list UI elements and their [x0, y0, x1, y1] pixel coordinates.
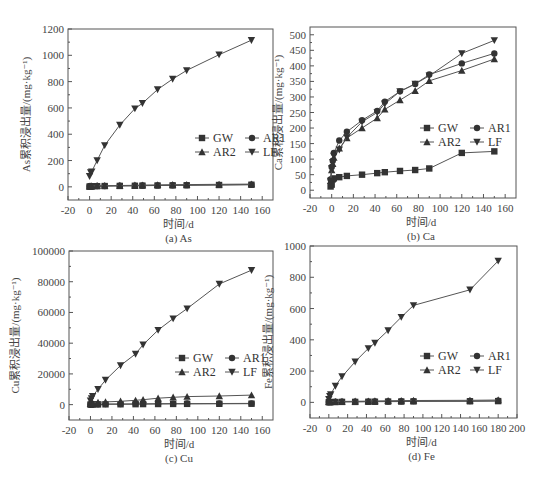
y-tick-label: 100000 [32, 245, 66, 257]
x-tick-label: -20 [61, 204, 76, 216]
x-tick-label: 40 [128, 424, 140, 436]
x-tick-label: 120 [211, 424, 228, 436]
x-axis: -20020406080100120140160 [303, 194, 514, 214]
y-axis-label: Fe累积浸出量/(mg·kg⁻¹) [261, 275, 275, 390]
legend-label: AR2 [438, 363, 461, 377]
x-axis-label: 时间/d [406, 216, 437, 228]
y-tick-label: 60000 [38, 306, 66, 318]
ar1-marker-icon [459, 60, 465, 66]
x-tick-label: 160 [254, 424, 271, 436]
y-tick-label: 400 [290, 60, 307, 72]
chart-caption: (b) Ca [407, 230, 435, 243]
legend-ar1-marker-icon [474, 353, 480, 359]
legend-label: GW [438, 349, 459, 363]
legend-label: AR1 [488, 121, 511, 135]
lf-marker-icon [216, 281, 223, 288]
y-tick-label: 0 [59, 181, 65, 193]
x-tick-label: 100 [415, 422, 432, 434]
x-tick-label: 140 [232, 204, 249, 216]
plot-frame [69, 251, 273, 420]
legend-item-lf: LF [225, 365, 257, 379]
ar2-marker-icon [491, 55, 498, 62]
y-tick-label: 150 [290, 138, 307, 150]
ar1-marker-icon [170, 400, 176, 406]
legend-item-lf: LF [470, 363, 502, 377]
y-tick-label: 300 [290, 91, 307, 103]
x-tick-label: 200 [509, 422, 526, 434]
legend-item-ar2: AR2 [420, 135, 461, 149]
lf-marker-icon [248, 37, 255, 44]
legend-label: AR2 [213, 145, 236, 159]
lf-marker-icon [93, 157, 100, 164]
series-lf [87, 267, 255, 404]
lf-marker-icon [101, 142, 108, 149]
lf-marker-icon [458, 50, 465, 57]
x-tick-label: 0 [326, 422, 332, 434]
gw-marker-icon [336, 174, 342, 180]
y-tick-label: 20000 [38, 368, 66, 380]
y-tick-label: 100 [290, 153, 307, 165]
gw-marker-icon [426, 165, 432, 171]
y-axis: 020000400006000080000100000 [32, 245, 73, 411]
y-tick-label: 80000 [38, 276, 66, 288]
x-tick-label: 40 [370, 202, 382, 214]
gw-marker-icon [412, 167, 418, 173]
chart-caption: (a) As [165, 232, 192, 245]
ar2-marker-icon [458, 67, 465, 74]
legend-label: LF [488, 363, 502, 377]
y-tick-label: 1000 [42, 49, 65, 61]
gw-marker-icon [374, 170, 380, 176]
ar1-marker-icon [336, 137, 342, 143]
y-tick-label: 350 [290, 75, 307, 87]
legend-item-ar1: AR1 [225, 351, 266, 365]
ar2-marker-icon [396, 96, 403, 103]
lf-marker-icon [169, 76, 176, 83]
lf-marker-icon [132, 351, 139, 358]
x-tick-label: 0 [87, 204, 93, 216]
legend-item-gw: GW [420, 349, 459, 363]
legend-item-ar1: AR1 [470, 349, 511, 363]
x-tick-label: 60 [380, 422, 392, 434]
legend-gw-marker-icon [424, 125, 430, 131]
lf-marker-icon [139, 100, 146, 107]
legend-label: GW [193, 351, 214, 365]
legend-item-ar2: AR2 [195, 145, 236, 159]
lf-marker-icon [183, 67, 190, 74]
lf-marker-icon [491, 37, 498, 44]
legend-label: GW [438, 121, 459, 135]
legend-label: AR2 [438, 135, 461, 149]
x-tick-label: 60 [391, 202, 403, 214]
legend-item-gw: GW [195, 131, 234, 145]
legend-item-ar2: AR2 [175, 365, 216, 379]
legend-gw-marker-icon [179, 355, 185, 361]
y-tick-label: 250 [290, 107, 307, 119]
gw-marker-icon [397, 168, 403, 174]
y-axis-label: As累积浸出量/(mg·kg⁻¹) [19, 56, 33, 172]
legend: GWAR1AR2LF [420, 349, 511, 377]
y-tick-label: 0 [301, 184, 307, 196]
legend-item-ar1: AR1 [470, 121, 511, 135]
series-lf [327, 37, 498, 184]
x-axis-label: 时间/d [406, 436, 437, 448]
x-tick-label: 60 [149, 204, 161, 216]
ar1-marker-icon [216, 400, 222, 406]
legend-item-gw: GW [175, 351, 214, 365]
gw-marker-icon [344, 173, 350, 179]
chart-b: -200204060801001201401600501001502002503… [271, 27, 516, 243]
x-tick-label: 80 [171, 424, 183, 436]
x-tick-label: 20 [348, 202, 360, 214]
gw-marker-icon [491, 148, 497, 154]
legend-label: AR1 [488, 349, 511, 363]
x-tick-label: 180 [490, 422, 507, 434]
y-axis-label: Cu累积浸出量/(mg·kg⁻¹) [8, 277, 22, 393]
x-tick-label: 160 [254, 204, 271, 216]
series-gw [327, 148, 497, 190]
x-tick-label: 140 [233, 424, 250, 436]
figure-canvas: -200204060801001201401600200400600800100… [0, 0, 549, 480]
series-ar2 [327, 55, 498, 184]
legend: GWAR1AR2LF [175, 351, 266, 379]
y-tick-label: 1000 [284, 240, 307, 252]
gw-marker-icon [359, 171, 365, 177]
y-tick-label: 800 [48, 76, 65, 88]
gw-marker-icon [382, 169, 388, 175]
